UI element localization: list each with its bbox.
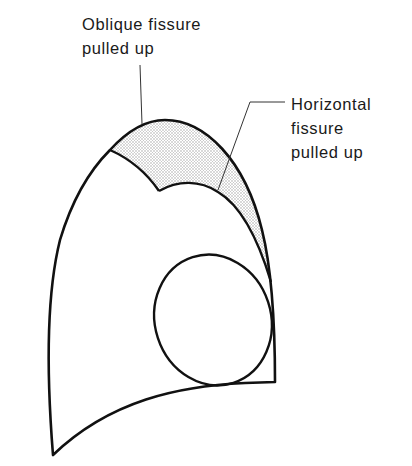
- horizontal-fissure-label: Horizontal fissure pulled up: [291, 92, 371, 164]
- oblique-fissure-label: Oblique fissure pulled up: [82, 12, 201, 60]
- horizontal-label-line3: pulled up: [291, 140, 371, 164]
- oblique-leader-line: [140, 65, 142, 124]
- horizontal-label-line1: Horizontal: [291, 92, 371, 116]
- horizontal-label-line2: fissure: [291, 116, 371, 140]
- oblique-label-line2: pulled up: [82, 36, 201, 60]
- oblique-label-line1: Oblique fissure: [82, 12, 201, 36]
- lung-diagram: Oblique fissure pulled up Horizontal fis…: [0, 0, 412, 466]
- lung-drawing: [0, 0, 412, 466]
